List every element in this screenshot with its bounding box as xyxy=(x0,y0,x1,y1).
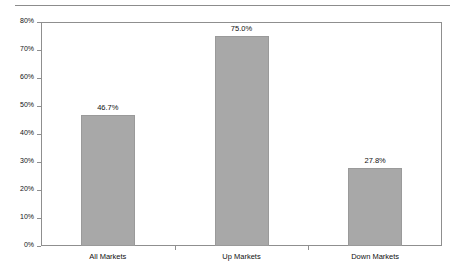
y-axis-tick-label: 20% xyxy=(20,185,34,192)
x-axis-tick-mark xyxy=(308,246,309,250)
y-axis-tick-label: 60% xyxy=(20,73,34,80)
bar xyxy=(348,168,402,246)
bar-value-label: 75.0% xyxy=(202,25,282,33)
bar-value-label: 46.7% xyxy=(68,104,148,112)
x-axis-category-label: All Markets xyxy=(58,252,158,261)
y-axis-tick-label: 70% xyxy=(20,45,34,52)
x-axis-category-label: Down Markets xyxy=(325,252,425,261)
y-axis-tick-label: 40% xyxy=(20,129,34,136)
x-axis-category-label: Up Markets xyxy=(192,252,292,261)
y-axis-tick-label: 30% xyxy=(20,157,34,164)
bar xyxy=(81,115,135,246)
y-axis-tick-label: 10% xyxy=(20,213,34,220)
plot-area xyxy=(41,22,442,246)
bar-value-label: 27.8% xyxy=(335,157,415,165)
bar xyxy=(215,36,269,246)
y-axis-tick-label: 0% xyxy=(24,241,34,248)
y-axis-tick-mark xyxy=(37,246,41,247)
y-axis-tick-label: 50% xyxy=(20,101,34,108)
y-axis-tick-label: 80% xyxy=(20,17,34,24)
bar-chart-figure: 0%10%20%30%40%50%60%70%80% 46.7%All Mark… xyxy=(0,0,460,280)
x-axis-tick-mark xyxy=(175,246,176,250)
